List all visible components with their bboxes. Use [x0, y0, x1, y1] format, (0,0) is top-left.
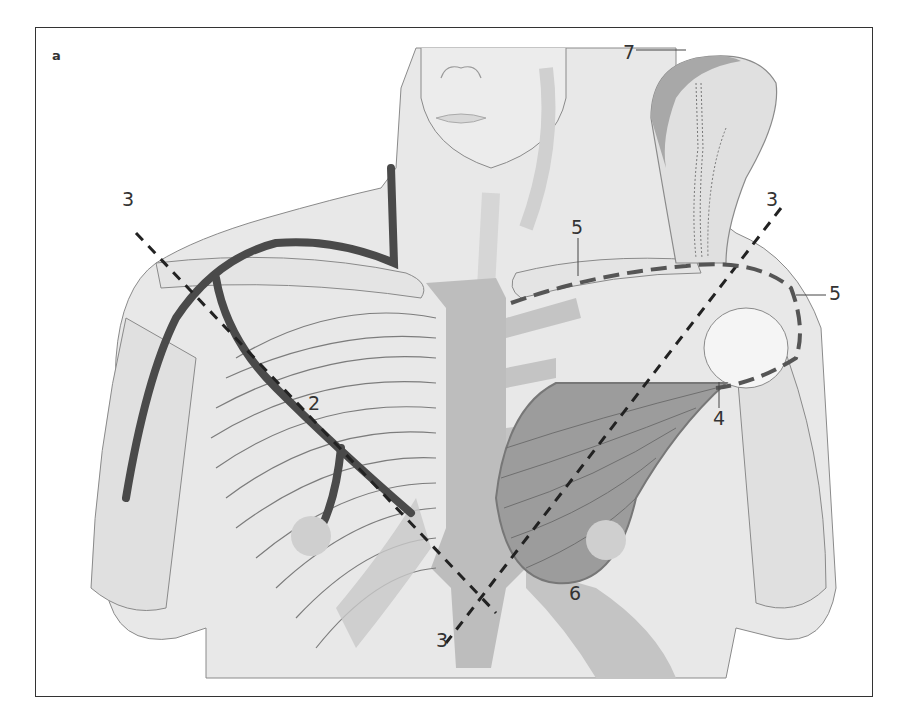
label-3-upper-right: 3 [766, 190, 778, 209]
neck-trachea [486, 193, 491, 288]
label-3-upper-left: 3 [122, 190, 134, 209]
humeral-head [704, 308, 788, 388]
label-3-bottom: 3 [436, 631, 448, 650]
right-nipple [586, 520, 626, 560]
label-4: 4 [713, 409, 725, 428]
label-7: 7 [623, 43, 635, 62]
label-5-clavicle: 5 [571, 218, 583, 237]
label-5-shoulder: 5 [829, 284, 841, 303]
anatomy-illustration [36, 28, 873, 697]
panel-letter: a [52, 48, 61, 63]
label-6: 6 [569, 584, 581, 603]
label-2: 2 [308, 394, 320, 413]
left-nipple [291, 516, 331, 556]
figure-frame: a 3 3 3 2 4 5 5 6 7 [35, 27, 873, 697]
